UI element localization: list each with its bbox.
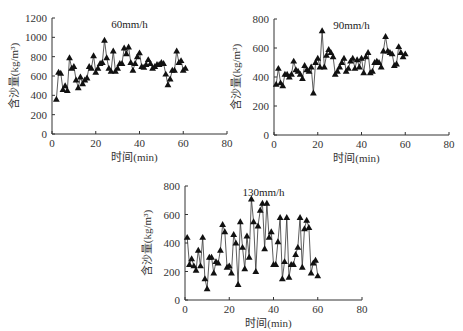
y-tick-label: 400 [164, 237, 181, 249]
triangle-marker [136, 49, 143, 55]
y-tick-label: 200 [253, 100, 270, 112]
chart-title: 130mm/h [242, 186, 285, 198]
triangle-marker [252, 268, 259, 274]
y-tick-label: 0 [175, 294, 181, 306]
y-tick-label: 600 [164, 209, 181, 221]
x-tick-label: 20 [90, 137, 102, 149]
triangle-marker [281, 258, 288, 264]
triangle-marker [294, 244, 301, 250]
y-axis-label: 含沙量(kg/m³) [140, 210, 154, 277]
x-tick-label: 0 [182, 303, 188, 315]
y-tick-label: 800 [31, 51, 48, 63]
triangle-marker [314, 272, 321, 278]
triangle-marker [303, 217, 310, 223]
triangle-marker [239, 244, 246, 250]
triangle-marker [125, 44, 132, 50]
y-tick-label: 800 [253, 13, 270, 25]
triangle-marker [310, 90, 317, 96]
triangle-marker [275, 238, 282, 244]
x-axis-label: 时间(min) [111, 151, 158, 164]
y-tick-label: 400 [253, 71, 270, 83]
triangle-marker [173, 47, 180, 53]
line-chart-130mmh: 0200400600800020406080130mm/h时间(min)含沙量(… [140, 165, 380, 331]
x-tick-label: 80 [222, 137, 234, 149]
series-line [187, 199, 318, 289]
triangle-marker [365, 49, 372, 55]
triangle-marker [235, 281, 242, 287]
triangle-marker [103, 54, 110, 60]
x-tick-label: 20 [224, 303, 236, 315]
triangle-marker [306, 224, 313, 230]
y-tick-label: 600 [253, 42, 270, 54]
triangle-marker [230, 231, 237, 237]
triangle-marker [197, 262, 204, 268]
triangle-marker [246, 254, 253, 260]
y-tick-label: 400 [31, 89, 48, 101]
triangle-marker [165, 81, 172, 87]
triangle-marker [290, 58, 297, 64]
chart-title: 90mm/h [333, 19, 370, 31]
x-axis-label: 时间(min) [245, 317, 292, 330]
y-tick-label: 800 [164, 180, 181, 192]
y-tick-label: 200 [31, 109, 48, 121]
triangle-marker [53, 96, 60, 102]
triangle-marker [263, 200, 270, 206]
x-tick-label: 40 [134, 137, 146, 149]
x-tick-label: 60 [400, 138, 412, 150]
triangle-marker [66, 54, 73, 60]
triangle-marker [219, 221, 226, 227]
chart-panel-60mmh: 02004006008001000120002040608060mm/h时间(m… [0, 0, 240, 160]
triangle-marker [277, 214, 284, 220]
triangle-marker [204, 285, 211, 291]
x-tick-label: 40 [356, 138, 368, 150]
triangle-marker [217, 247, 224, 253]
y-tick-label: 0 [42, 128, 48, 140]
y-axis-label: 含沙量(kg/m³) [229, 44, 243, 111]
x-axis-label: 时间(min) [333, 152, 380, 165]
x-tick-label: 0 [271, 138, 277, 150]
triangle-marker [297, 214, 304, 220]
triangle-marker [130, 67, 137, 73]
triangle-marker [283, 214, 290, 220]
triangle-marker [286, 274, 293, 280]
x-tick-label: 40 [268, 303, 280, 315]
triangle-marker [101, 37, 108, 43]
triangle-marker [250, 218, 257, 224]
y-tick-label: 200 [164, 266, 181, 278]
triangle-marker [292, 251, 299, 257]
y-tick-label: 1200 [25, 12, 48, 24]
x-tick-label: 60 [312, 303, 324, 315]
triangle-marker [321, 63, 328, 69]
x-tick-label: 80 [357, 303, 369, 315]
y-tick-label: 600 [31, 70, 48, 82]
series-markers [273, 27, 409, 95]
triangle-marker [382, 33, 389, 39]
chart-panel-130mmh: 0200400600800020406080130mm/h时间(min)含沙量(… [140, 165, 380, 331]
triangle-marker [237, 218, 244, 224]
chart-panel-90mmh: 020040060080002040608090mm/h时间(min)含沙量(k… [240, 0, 463, 165]
triangle-marker [308, 270, 315, 276]
y-tick-label: 0 [264, 129, 270, 141]
triangle-marker [202, 275, 209, 281]
triangle-marker [210, 270, 217, 276]
chart-title: 60mm/h [111, 18, 148, 30]
triangle-marker [360, 69, 367, 75]
line-chart-90mmh: 020040060080002040608090mm/h时间(min)含沙量(k… [240, 0, 463, 165]
x-tick-label: 0 [49, 137, 55, 149]
x-tick-label: 80 [444, 138, 456, 150]
triangle-marker [241, 265, 248, 271]
triangle-marker [319, 27, 326, 33]
x-tick-label: 20 [312, 138, 324, 150]
triangle-marker [162, 71, 169, 77]
line-chart-60mmh: 02004006008001000120002040608060mm/h时间(m… [0, 0, 240, 160]
triangle-marker [341, 55, 348, 61]
triangle-marker [77, 74, 84, 80]
triangle-marker [228, 270, 235, 276]
y-axis-label: 含沙量(kg/m³) [7, 43, 21, 110]
triangle-marker [244, 232, 251, 238]
triangle-marker [199, 234, 206, 240]
triangle-marker [195, 247, 202, 253]
series-line [56, 40, 185, 99]
triangle-marker [356, 63, 363, 69]
x-tick-label: 60 [178, 137, 190, 149]
